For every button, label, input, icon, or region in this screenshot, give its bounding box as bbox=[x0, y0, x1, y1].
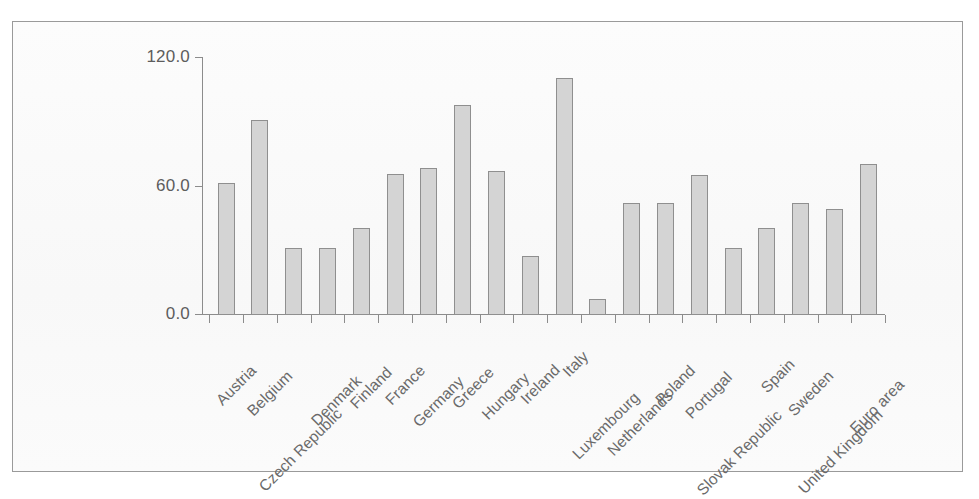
y-axis-tick bbox=[195, 186, 202, 187]
x-axis-tick bbox=[311, 315, 312, 323]
bar bbox=[758, 228, 775, 315]
x-axis-tick-label: Spain bbox=[757, 355, 798, 396]
bar bbox=[691, 175, 708, 315]
bar bbox=[589, 299, 606, 315]
y-axis-tick bbox=[195, 314, 202, 315]
x-axis-tick-label: Italy bbox=[559, 347, 592, 380]
x-axis-tick bbox=[851, 315, 852, 323]
bar bbox=[251, 120, 268, 315]
x-axis-tick-label: Sweden bbox=[784, 367, 837, 420]
x-axis-tick-label: Slovak Republic bbox=[693, 407, 785, 499]
x-axis-tick bbox=[412, 315, 413, 323]
bar-chart-plot: 0.060.0120.0AustriaBelgiumCzech Republic… bbox=[13, 22, 964, 473]
bar bbox=[319, 248, 336, 315]
bar bbox=[623, 203, 640, 315]
bar bbox=[218, 183, 235, 315]
bar bbox=[285, 248, 302, 315]
x-axis-tick-label: Czech Republic bbox=[255, 405, 345, 495]
y-axis-line bbox=[202, 57, 203, 315]
bar bbox=[826, 209, 843, 315]
x-axis-tick bbox=[513, 315, 514, 323]
x-axis-tick bbox=[818, 315, 819, 323]
x-axis-tick bbox=[581, 315, 582, 323]
y-axis-tick bbox=[195, 57, 202, 58]
x-axis-tick bbox=[547, 315, 548, 323]
figure-frame: 0.060.0120.0AustriaBelgiumCzech Republic… bbox=[12, 21, 963, 472]
x-axis-tick bbox=[480, 315, 481, 323]
x-axis-tick bbox=[784, 315, 785, 323]
x-axis-tick bbox=[209, 315, 210, 323]
bar bbox=[657, 203, 674, 315]
x-axis-tick bbox=[277, 315, 278, 323]
x-axis-tick-label: Euro area bbox=[847, 376, 909, 438]
x-axis-tick bbox=[649, 315, 650, 323]
x-axis-tick bbox=[615, 315, 616, 323]
x-axis-tick bbox=[446, 315, 447, 323]
y-axis-tick-label: 120.0 bbox=[146, 47, 190, 67]
y-axis-tick-label: 60.0 bbox=[156, 176, 190, 196]
x-axis-tick bbox=[750, 315, 751, 323]
bar bbox=[725, 248, 742, 315]
x-axis-tick bbox=[344, 315, 345, 323]
bar bbox=[522, 256, 539, 315]
bar bbox=[556, 78, 573, 315]
y-axis-tick-label: 0.0 bbox=[166, 304, 190, 324]
x-axis-tick bbox=[378, 315, 379, 323]
bar bbox=[387, 174, 404, 315]
x-axis-tick bbox=[682, 315, 683, 323]
bar bbox=[860, 164, 877, 315]
bar bbox=[420, 168, 437, 315]
bar bbox=[488, 171, 505, 315]
x-axis-tick bbox=[243, 315, 244, 323]
x-axis-tick bbox=[885, 315, 886, 323]
bar bbox=[353, 228, 370, 315]
bar bbox=[454, 105, 471, 315]
bar bbox=[792, 203, 809, 315]
x-axis-line bbox=[202, 314, 885, 315]
x-axis-tick bbox=[716, 315, 717, 323]
